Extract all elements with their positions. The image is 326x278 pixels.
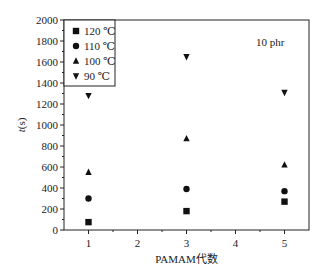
data-point-triangle-up — [183, 135, 189, 141]
data-point-square — [281, 198, 287, 204]
data-point-circle — [183, 186, 189, 192]
data-point-triangle-down — [281, 90, 287, 96]
y-axis-label: t(s) — [15, 117, 28, 132]
x-tick-label: 2 — [135, 237, 141, 249]
x-tick-label: 5 — [282, 237, 288, 249]
data-point-triangle-down — [183, 54, 189, 60]
y-tick-label: 200 — [42, 203, 59, 215]
y-tick-label: 800 — [42, 140, 59, 152]
legend-marker-square — [73, 28, 79, 34]
y-tick-label: 400 — [42, 182, 59, 194]
y-tick-label: 1400 — [36, 77, 59, 89]
y-tick-label: 1800 — [36, 35, 59, 47]
data-point-square — [85, 219, 91, 225]
x-axis-label: PAMAM代数 — [155, 253, 218, 265]
data-point-triangle-up — [85, 169, 91, 175]
data-point-circle — [281, 188, 287, 194]
legend-marker-circle — [73, 43, 79, 49]
x-tick-label: 4 — [233, 237, 239, 249]
y-tick-label: 1600 — [36, 56, 59, 68]
y-tick-label: 1200 — [36, 98, 59, 110]
annotation-label: 10 phr — [256, 36, 285, 48]
y-tick-label: 1000 — [36, 119, 59, 131]
data-point-triangle-up — [281, 161, 287, 167]
scatter-chart: 0200400600800100012001400160018002000123… — [0, 0, 326, 278]
y-tick-label: 600 — [42, 161, 59, 173]
y-tick-label: 0 — [53, 224, 59, 236]
data-point-square — [183, 208, 189, 214]
legend-label: 120 ℃ — [84, 25, 116, 37]
legend-label: 90 ℃ — [84, 70, 110, 82]
legend-label: 110 ℃ — [84, 40, 115, 52]
x-tick-label: 3 — [184, 237, 190, 249]
data-point-circle — [85, 195, 91, 201]
x-tick-label: 1 — [86, 237, 92, 249]
y-tick-label: 2000 — [36, 14, 59, 26]
data-point-triangle-down — [85, 93, 91, 99]
legend-label: 100 ℃ — [84, 55, 116, 67]
